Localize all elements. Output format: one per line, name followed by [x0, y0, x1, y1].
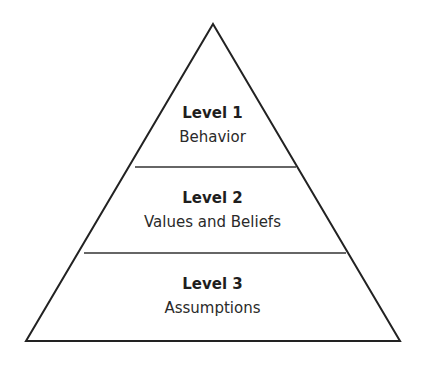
level-2-description: Values and Beliefs	[0, 213, 425, 231]
level-1-description: Behavior	[0, 128, 425, 146]
pyramid-outline	[26, 24, 400, 341]
level-1-title: Level 1	[0, 104, 425, 122]
level-2-title: Level 2	[0, 189, 425, 207]
level-3-title: Level 3	[0, 275, 425, 293]
level-3-description: Assumptions	[0, 299, 425, 317]
